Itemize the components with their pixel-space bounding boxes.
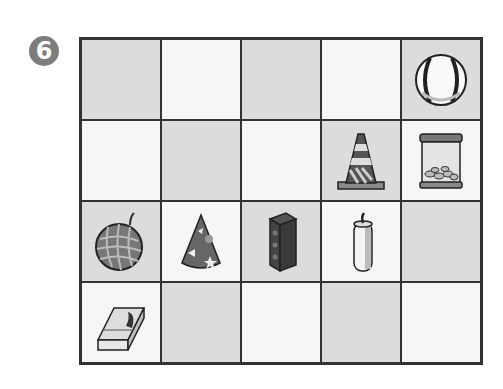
object-grid [79, 37, 483, 365]
grid-cell-r2-c1[interactable] [161, 201, 241, 282]
grid-cell-r2-c0[interactable] [81, 201, 161, 282]
grid-cell-r0-c3[interactable] [321, 39, 401, 120]
grid-cell-r0-c1[interactable] [161, 39, 241, 120]
grid-cell-r2-c2[interactable] [241, 201, 321, 282]
grid-cell-r3-c2[interactable] [241, 282, 321, 363]
problem-number-badge: 6 [29, 36, 59, 66]
grid-cell-r0-c0[interactable] [81, 39, 161, 120]
candle-icon [328, 209, 394, 275]
baseball-icon [408, 47, 474, 113]
grid-cell-r3-c0[interactable] [81, 282, 161, 363]
grid-cell-r1-c2[interactable] [241, 120, 321, 201]
grid-cell-r3-c3[interactable] [321, 282, 401, 363]
grid-cell-r2-c3[interactable] [321, 201, 401, 282]
brick-icon [248, 209, 314, 275]
grid-cell-r3-c4[interactable] [401, 282, 481, 363]
tissue-box-icon [88, 290, 154, 356]
grid-cell-r1-c3[interactable] [321, 120, 401, 201]
grid-cell-r3-c1[interactable] [161, 282, 241, 363]
grid-cell-r0-c4[interactable] [401, 39, 481, 120]
peanut-jar-icon [408, 128, 474, 194]
party-hat-icon [168, 209, 234, 275]
melon-icon [88, 209, 154, 275]
grid-cell-r1-c0[interactable] [81, 120, 161, 201]
grid-cell-r2-c4[interactable] [401, 201, 481, 282]
grid-cell-r1-c1[interactable] [161, 120, 241, 201]
grid-cell-r1-c4[interactable] [401, 120, 481, 201]
traffic-cone-icon [328, 128, 394, 194]
grid-cell-r0-c2[interactable] [241, 39, 321, 120]
